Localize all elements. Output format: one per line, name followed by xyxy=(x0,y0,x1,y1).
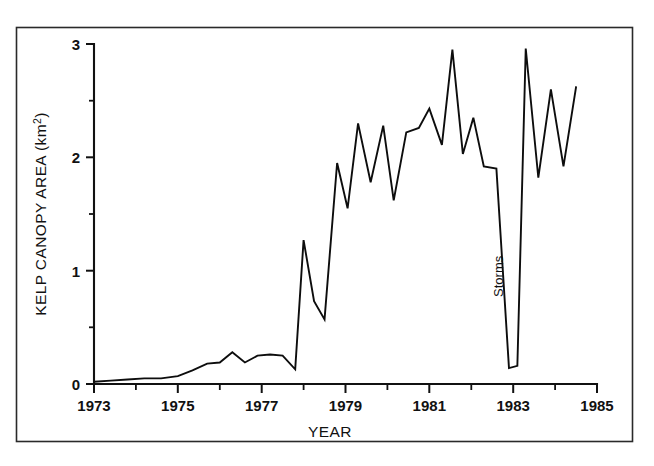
x-major-ticks xyxy=(94,384,597,393)
figure-frame xyxy=(17,28,633,442)
x-tick-label-1973: 1973 xyxy=(77,397,110,414)
y-axis-title-group: KELP CANOPY AREA (km2) xyxy=(31,112,49,316)
y-axis-title: KELP CANOPY AREA (km xyxy=(32,124,49,316)
y-tick-label-1: 1 xyxy=(72,263,80,280)
x-axis-title: YEAR xyxy=(308,423,352,440)
chart-svg: 0 1 2 3 1973 1975 1977 1979 1981 1983 19… xyxy=(0,0,654,466)
y-tick-label-2: 2 xyxy=(72,149,80,166)
y-tick-label-3: 3 xyxy=(72,36,80,53)
x-tick-label-1985: 1985 xyxy=(580,397,613,414)
x-tick-label-1981: 1981 xyxy=(413,397,446,414)
storms-annotation-label: Storms xyxy=(491,255,506,297)
x-tick-label-1979: 1979 xyxy=(329,397,362,414)
storms-annotation-group: Storms xyxy=(491,255,506,297)
y-axis-title-suffix: ) xyxy=(32,112,49,118)
y-tick-label-0: 0 xyxy=(72,376,80,393)
x-tick-label-1983: 1983 xyxy=(497,397,530,414)
x-tick-labels: 1973 1975 1977 1979 1981 1983 1985 xyxy=(77,397,613,414)
x-tick-label-1977: 1977 xyxy=(245,397,278,414)
x-tick-label-1975: 1975 xyxy=(161,397,194,414)
chart-figure: 0 1 2 3 1973 1975 1977 1979 1981 1983 19… xyxy=(0,0,654,466)
svg-text:KELP CANOPY AREA (km2): KELP CANOPY AREA (km2) xyxy=(31,112,49,316)
data-series-line xyxy=(94,49,576,382)
y-tick-labels: 0 1 2 3 xyxy=(72,36,80,393)
